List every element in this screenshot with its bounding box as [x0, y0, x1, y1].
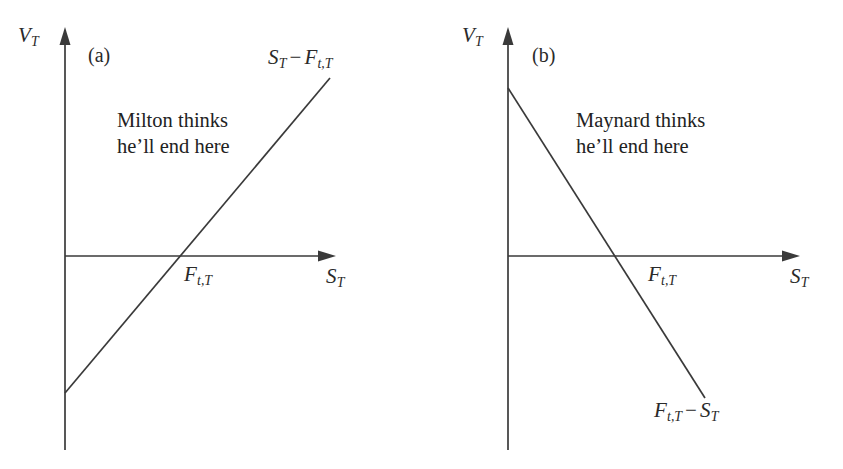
y-axis-arrowhead-icon: [503, 27, 514, 45]
x-intercept-label-b: Ft,T: [648, 264, 676, 288]
x-axis-label-symbol: S: [790, 264, 801, 288]
panel-b-axes-and-line: [421, 0, 843, 469]
payoff-line-label-a: ST−Ft,T: [268, 47, 333, 71]
payoff-line-label-b: Ft,T−ST: [654, 400, 719, 424]
panel-a-axes-and-line: [0, 0, 421, 469]
x-intercept-subscript: t,T: [197, 273, 212, 288]
y-axis-label: VT: [18, 25, 39, 49]
payoff-label-right-symbol: S: [700, 398, 711, 422]
payoff-label-operator: −: [286, 45, 304, 69]
x-axis-label-subscript: T: [801, 275, 809, 290]
annotation-note-a: Milton thinks he’ll end here: [117, 107, 230, 159]
x-axis-arrowhead-icon: [318, 251, 336, 262]
payoff-label-left-symbol: F: [654, 398, 667, 422]
annotation-note-b-line1: Maynard thinks: [576, 107, 705, 133]
x-intercept-symbol: F: [184, 262, 197, 286]
payoff-label-left-subscript: t,T: [667, 409, 682, 424]
panel-tag-a: (a): [88, 45, 110, 65]
annotation-note-b: Maynard thinks he’ll end here: [576, 107, 705, 159]
payoff-label-right-subscript: t,T: [318, 56, 333, 71]
payoff-label-left-symbol: S: [268, 45, 279, 69]
x-axis-label-a: ST: [326, 266, 344, 290]
y-axis-label-subscript: T: [475, 34, 483, 49]
annotation-note-a-line1: Milton thinks: [117, 107, 230, 133]
x-axis-label-b: ST: [790, 266, 808, 290]
x-axis-label-symbol: S: [326, 264, 337, 288]
y-axis-arrowhead-icon: [60, 27, 71, 45]
x-intercept-symbol: F: [648, 262, 661, 286]
payoff-label-right-subscript: T: [711, 409, 719, 424]
panel-tag-b: (b): [532, 45, 555, 65]
y-axis-label: VT: [462, 25, 483, 49]
x-axis-arrowhead-icon: [782, 251, 800, 262]
annotation-note-a-line2: he’ll end here: [117, 133, 230, 159]
panel-a: VT (a) ST−Ft,T Milton thinks he’ll end h…: [0, 0, 421, 469]
y-axis-label-subscript: T: [31, 34, 39, 49]
payoff-label-right-symbol: F: [304, 45, 317, 69]
payoff-label-operator: −: [682, 398, 700, 422]
payoff-diagram-figure: VT (a) ST−Ft,T Milton thinks he’ll end h…: [0, 0, 843, 469]
x-intercept-label-a: Ft,T: [184, 264, 212, 288]
x-axis-label-subscript: T: [337, 275, 345, 290]
y-axis-label-symbol: V: [18, 23, 31, 47]
y-axis-label-symbol: V: [462, 23, 475, 47]
annotation-note-b-line2: he’ll end here: [576, 133, 705, 159]
x-intercept-subscript: t,T: [661, 273, 676, 288]
panel-b: VT (b) Maynard thinks he’ll end here Ft,…: [421, 0, 843, 469]
